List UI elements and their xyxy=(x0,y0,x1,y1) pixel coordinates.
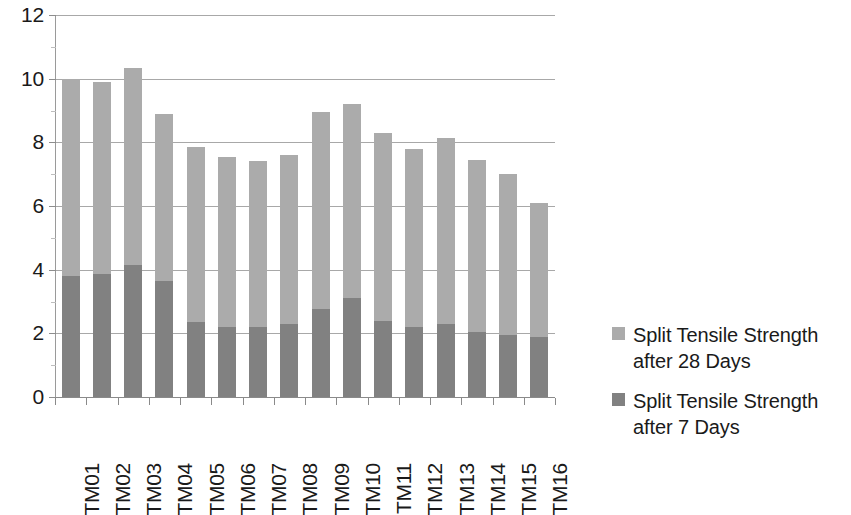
x-tick-label-tm14: TM14 xyxy=(487,463,508,515)
x-tick-label-tm05: TM05 xyxy=(206,463,227,515)
y-tick-mark xyxy=(49,79,56,80)
x-tick-mark xyxy=(493,398,494,405)
legend-item: Split Tensile Strength after 28 Days xyxy=(612,322,851,374)
x-tick-mark xyxy=(243,398,244,405)
x-tick-mark xyxy=(461,398,462,405)
x-tick-mark xyxy=(180,398,181,405)
y-minor-tick-mark xyxy=(51,111,56,112)
x-tick-label-tm16: TM16 xyxy=(549,463,570,515)
x-tick-label-tm01: TM01 xyxy=(81,463,102,515)
legend-item: Split Tensile Strength after 7 Days xyxy=(612,388,851,440)
y-minor-tick-mark xyxy=(51,302,56,303)
legend-swatch-icon xyxy=(612,327,625,340)
x-tick-label-tm03: TM03 xyxy=(143,463,164,515)
y-tick-mark xyxy=(49,142,56,143)
x-tick-mark xyxy=(555,398,556,405)
x-tick-mark xyxy=(55,398,56,405)
legend-item-label: Split Tensile Strength after 28 Days xyxy=(633,322,851,374)
y-tick-mark xyxy=(49,270,56,271)
x-tick-label-tm08: TM08 xyxy=(299,463,320,515)
y-minor-tick-mark xyxy=(51,174,56,175)
y-tick-mark xyxy=(49,397,56,398)
x-tick-label-tm12: TM12 xyxy=(424,463,445,515)
x-tick-label-tm15: TM15 xyxy=(518,463,539,515)
x-tick-label-tm09: TM09 xyxy=(331,463,352,515)
x-tick-label-tm13: TM13 xyxy=(456,463,477,515)
y-tick-mark xyxy=(49,15,56,16)
x-tick-mark xyxy=(368,398,369,405)
x-tick-mark xyxy=(149,398,150,405)
chart-legend: Split Tensile Strength after 28 Days Spl… xyxy=(612,322,851,454)
x-tick-mark xyxy=(274,398,275,405)
y-minor-tick-mark xyxy=(51,365,56,366)
legend-swatch-icon xyxy=(612,393,625,406)
x-tick-label-tm04: TM04 xyxy=(174,463,195,515)
x-tick-label-tm06: TM06 xyxy=(237,463,258,515)
x-tick-label-tm07: TM07 xyxy=(268,463,289,515)
x-tick-mark xyxy=(399,398,400,405)
x-tick-label-tm02: TM02 xyxy=(112,463,133,515)
y-tick-mark xyxy=(49,206,56,207)
legend-item-label: Split Tensile Strength after 7 Days xyxy=(633,388,851,440)
x-tick-mark xyxy=(211,398,212,405)
x-tick-mark xyxy=(305,398,306,405)
y-minor-tick-mark xyxy=(51,238,56,239)
x-tick-mark xyxy=(86,398,87,405)
x-tick-label-tm11: TM11 xyxy=(393,463,414,514)
x-tick-mark xyxy=(430,398,431,405)
y-minor-tick-mark xyxy=(51,47,56,48)
x-tick-label-tm10: TM10 xyxy=(362,463,383,515)
x-tick-mark xyxy=(336,398,337,405)
y-tick-mark xyxy=(49,333,56,334)
x-tick-mark xyxy=(524,398,525,405)
x-tick-mark xyxy=(118,398,119,405)
